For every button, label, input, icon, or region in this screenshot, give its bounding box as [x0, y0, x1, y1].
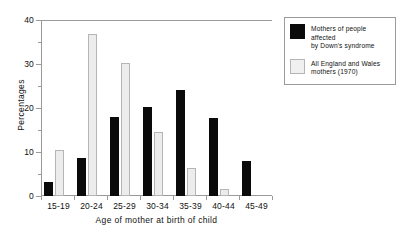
- y-tick-label: 30: [8, 59, 34, 69]
- bar-all-mothers[interactable]: [154, 132, 163, 196]
- bar-group: [206, 20, 239, 196]
- bar-chart-figure: Percentages 010203040 15-1920-2425-2930-…: [0, 0, 402, 242]
- bar-down-syndrome[interactable]: [77, 158, 86, 196]
- bar-all-mothers[interactable]: [220, 189, 229, 196]
- bar-all-mothers[interactable]: [187, 168, 196, 196]
- y-tick-label: 0: [8, 191, 34, 201]
- x-tick: [107, 196, 108, 200]
- bar-down-syndrome[interactable]: [242, 161, 251, 196]
- x-tick: [140, 196, 141, 200]
- bar-group: [107, 20, 140, 196]
- bar-down-syndrome[interactable]: [44, 182, 53, 196]
- x-tick: [74, 196, 75, 200]
- legend-label-line1: All England and Wales: [311, 60, 380, 67]
- x-tick: [239, 196, 240, 200]
- x-tick: [41, 196, 42, 200]
- bar-all-mothers[interactable]: [121, 63, 130, 196]
- y-tick-label: 10: [8, 147, 34, 157]
- y-tick-label: 20: [8, 103, 34, 113]
- y-tick-label: 40: [8, 15, 34, 25]
- legend-label-line1: Mothers of people affected: [311, 25, 366, 41]
- bars-layer: [41, 20, 272, 196]
- legend-label-all-mothers: All England and Wales mothers (1970): [311, 59, 380, 77]
- bar-down-syndrome[interactable]: [209, 118, 218, 196]
- legend-label-down-syndrome: Mothers of people affected by Down's syn…: [311, 24, 390, 51]
- bar-down-syndrome[interactable]: [143, 107, 152, 196]
- bar-group: [140, 20, 173, 196]
- x-axis-title: Age of mother at birth of child: [41, 215, 272, 225]
- legend: Mothers of people affected by Down's syn…: [284, 17, 396, 85]
- legend-label-line2: by Down's syndrome: [311, 42, 375, 49]
- x-tick: [173, 196, 174, 200]
- bar-group: [173, 20, 206, 196]
- x-tick: [272, 196, 273, 200]
- bar-down-syndrome[interactable]: [176, 90, 185, 196]
- legend-swatch-dark-icon: [290, 24, 305, 39]
- bar-down-syndrome[interactable]: [110, 117, 119, 196]
- legend-item-down-syndrome: Mothers of people affected by Down's syn…: [290, 24, 390, 51]
- x-tick-label: 45-49: [234, 201, 280, 211]
- bar-all-mothers[interactable]: [88, 34, 97, 196]
- bar-all-mothers[interactable]: [55, 150, 64, 196]
- legend-label-line2: mothers (1970): [311, 68, 358, 75]
- bar-group: [74, 20, 107, 196]
- x-tick: [206, 196, 207, 200]
- bar-group: [41, 20, 74, 196]
- legend-item-all-mothers: All England and Wales mothers (1970): [290, 59, 390, 77]
- legend-swatch-light-icon: [290, 59, 305, 74]
- bar-group: [239, 20, 272, 196]
